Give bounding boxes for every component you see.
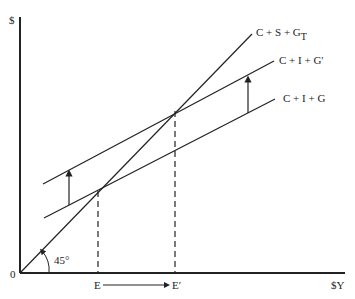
angle-arc xyxy=(42,251,49,273)
line-c-i-g xyxy=(44,99,275,218)
angle-label: 45° xyxy=(54,254,69,266)
y-axis-label: $ xyxy=(9,14,15,26)
label-c-s-gt: C + S + GT xyxy=(256,26,307,42)
line-c-i-g-prime xyxy=(43,61,274,184)
origin-label: 0 xyxy=(10,268,16,280)
label-e-prime: E′ xyxy=(172,279,181,291)
x-axis-label: $Y xyxy=(331,279,345,291)
label-e: E xyxy=(94,279,101,291)
label-c-i-g: C + I + G xyxy=(283,92,325,104)
diagram-canvas: $ $Y 0 C + S + GT C + I + G′ C + I + G 4… xyxy=(0,0,355,299)
label-c-i-g-prime: C + I + G′ xyxy=(279,54,324,66)
line-c-s-gt xyxy=(20,34,252,273)
